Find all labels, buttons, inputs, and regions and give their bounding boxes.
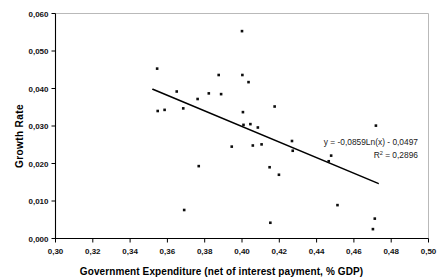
- data-point: [196, 98, 199, 101]
- x-tick-label: 0,44: [309, 247, 325, 256]
- y-axis-title: Growth Rate: [14, 104, 25, 168]
- data-point: [241, 30, 244, 33]
- data-point: [372, 228, 375, 231]
- data-point: [260, 143, 263, 146]
- x-tick-label: 0,34: [122, 247, 138, 256]
- data-point: [249, 123, 252, 126]
- data-point: [175, 90, 178, 93]
- data-point: [247, 81, 250, 84]
- data-point: [241, 74, 244, 77]
- data-point: [156, 110, 159, 113]
- x-tick-label: 0,30: [48, 247, 64, 256]
- data-point: [291, 140, 294, 143]
- data-point: [269, 221, 272, 224]
- x-tick-label: 0,46: [346, 247, 362, 256]
- data-point: [373, 217, 376, 220]
- y-tick-label: 0,000: [28, 235, 49, 244]
- data-point: [268, 166, 271, 169]
- data-point: [278, 173, 281, 176]
- x-tick-label: 0,32: [85, 247, 101, 256]
- trendline-equation: y = -0,0859Ln(x) - 0,0497: [324, 137, 419, 147]
- data-point: [336, 204, 339, 207]
- data-point: [183, 209, 186, 212]
- y-tick-label: 0,040: [28, 85, 49, 94]
- r-squared-annotation: R2 = 0,2896: [374, 150, 419, 160]
- data-point: [220, 93, 223, 96]
- chart-container: 0,0000,0100,0200,0300,0400,0500,0600,300…: [0, 0, 443, 279]
- data-point: [327, 160, 330, 163]
- data-point: [257, 126, 260, 129]
- data-point: [252, 144, 255, 147]
- data-point: [156, 67, 159, 70]
- x-tick-label: 0,48: [383, 247, 399, 256]
- data-point: [242, 124, 245, 127]
- y-tick-label: 0,010: [28, 197, 49, 206]
- x-tick-label: 0,36: [160, 247, 176, 256]
- data-point: [230, 145, 233, 148]
- data-point: [242, 111, 245, 114]
- data-point: [182, 107, 185, 110]
- scatter-plot-svg: 0,0000,0100,0200,0300,0400,0500,0600,300…: [0, 0, 443, 279]
- y-tick-label: 0,030: [28, 122, 49, 131]
- data-point: [217, 74, 220, 77]
- data-point: [273, 105, 276, 108]
- data-point: [208, 92, 211, 95]
- data-point: [330, 154, 333, 157]
- y-tick-label: 0,020: [28, 160, 49, 169]
- data-point: [375, 124, 378, 127]
- data-point: [291, 149, 294, 152]
- x-axis-title: Government Expenditure (net of interest …: [0, 266, 443, 277]
- data-point: [197, 165, 200, 168]
- data-point: [163, 109, 166, 112]
- x-tick-label: 0,38: [197, 247, 213, 256]
- y-tick-label: 0,060: [28, 10, 49, 19]
- x-tick-label: 0,42: [272, 247, 288, 256]
- x-tick-label: 0,40: [234, 247, 250, 256]
- x-tick-label: 0,50: [421, 247, 437, 256]
- y-tick-label: 0,050: [28, 47, 49, 56]
